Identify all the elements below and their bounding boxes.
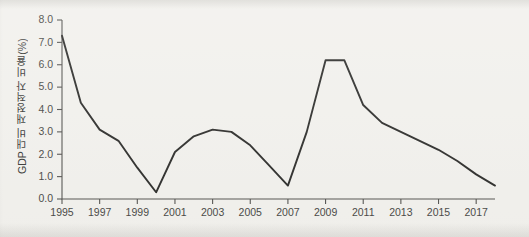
axis-lines [62,20,495,199]
y-tick-label: 2.0 [38,148,53,160]
x-tick-label: 2007 [276,206,300,218]
y-tick-label: 1.0 [38,170,53,182]
x-tick-label: 1999 [126,206,150,218]
x-tick-label: 2009 [314,206,338,218]
x-tick-label: 2013 [389,206,413,218]
x-tick-label: 2005 [239,206,263,218]
x-tick-label: 2011 [352,206,375,218]
y-tick-label: 8.0 [38,13,53,25]
x-tick-label: 1995 [50,206,74,218]
x-axis-tick-labels: 1995199719992001200320052007200920112013… [50,199,488,218]
x-tick-label: 2015 [427,206,451,218]
y-tick-label: 0.0 [38,192,53,204]
chart-plot: 0.01.02.03.04.05.06.07.08.0 199519971999… [0,0,529,237]
chart-container: GDP 대비 재정적자 비율(%) 0.01.02.03.04.05.06.07… [0,0,529,237]
y-tick-label: 7.0 [38,36,53,48]
y-tick-label: 4.0 [38,103,53,115]
x-tick-label: 1997 [88,206,112,218]
y-tick-label: 5.0 [38,80,53,92]
data-series-line [62,36,495,193]
y-tick-label: 3.0 [38,125,53,137]
y-axis-tick-labels: 0.01.02.03.04.05.06.07.08.0 [38,13,62,204]
x-tick-label: 2017 [464,206,488,218]
x-tick-label: 2003 [201,206,225,218]
x-tick-label: 2001 [163,206,187,218]
y-tick-label: 6.0 [38,58,53,70]
